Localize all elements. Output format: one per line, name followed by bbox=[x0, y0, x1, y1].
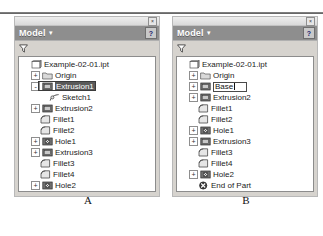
expand-toggle-icon[interactable]: + bbox=[31, 137, 40, 146]
model-tree[interactable]: Example-02-01.ipt+Origin-Extrusion1Sketc… bbox=[18, 56, 156, 192]
tree-row[interactable]: Fillet1 bbox=[177, 103, 313, 114]
model-tree[interactable]: Example-02-01.ipt+Origin+Base+Extrusion2… bbox=[176, 56, 314, 192]
model-titlebar[interactable]: Model▾? bbox=[15, 26, 159, 41]
toggle-placeholder bbox=[189, 105, 196, 112]
toggle-placeholder bbox=[189, 149, 196, 156]
tree-node-label: Extrusion1 bbox=[55, 82, 95, 91]
tree-node-label: Example-02-01.ipt bbox=[44, 60, 109, 69]
expand-toggle-icon[interactable]: + bbox=[189, 93, 198, 102]
tree-row[interactable]: Fillet4 bbox=[177, 158, 313, 169]
tree-node-label: Extrusion3 bbox=[55, 148, 93, 157]
model-browser-panel-a: ×Model▾?Example-02-01.ipt+Origin-Extrusi… bbox=[14, 16, 162, 197]
expand-toggle-icon[interactable]: + bbox=[31, 71, 40, 80]
tree-row[interactable]: Example-02-01.ipt bbox=[177, 59, 313, 70]
figure-caption: A bbox=[14, 194, 162, 206]
tree-row[interactable]: +Origin bbox=[19, 70, 155, 81]
tree-row[interactable]: Fillet1 bbox=[19, 114, 155, 125]
tree-row[interactable]: +Extrusion3 bbox=[19, 147, 155, 158]
fillet-icon bbox=[198, 148, 209, 157]
toggle-placeholder bbox=[31, 116, 38, 123]
rename-input[interactable]: Base bbox=[213, 82, 247, 92]
tree-node-label: Fillet1 bbox=[211, 104, 232, 113]
tree-row[interactable]: +Extrusion2 bbox=[177, 92, 313, 103]
tree-node-label: Fillet4 bbox=[211, 159, 232, 168]
tree-row[interactable]: +Origin bbox=[177, 70, 313, 81]
tree-row[interactable]: End of Part bbox=[177, 180, 313, 191]
figure-container: ×Model▾?Example-02-01.ipt+Origin-Extrusi… bbox=[0, 16, 323, 236]
tree-row[interactable]: +Extrusion2 bbox=[19, 103, 155, 114]
tree-node-label: Example-02-01.ipt bbox=[202, 60, 267, 69]
sketch-icon bbox=[49, 93, 60, 102]
tree-node-label: Extrusion3 bbox=[213, 137, 251, 146]
filter-funnel-icon[interactable] bbox=[177, 44, 186, 53]
folder-icon bbox=[42, 71, 53, 80]
filter-toolbar bbox=[15, 41, 159, 55]
browser-window: ×Model▾?Example-02-01.ipt+Origin+Base+Ex… bbox=[172, 16, 318, 197]
chevron-down-icon[interactable]: ▾ bbox=[49, 29, 53, 37]
tree-node-label: Hole2 bbox=[213, 170, 234, 179]
tree-node-label: Fillet4 bbox=[53, 170, 74, 179]
toggle-placeholder bbox=[189, 116, 196, 123]
expand-toggle-icon[interactable]: + bbox=[189, 126, 198, 135]
tree-node-label: End of Part bbox=[211, 181, 251, 190]
toggle-placeholder bbox=[180, 61, 187, 68]
hole-icon bbox=[200, 170, 211, 179]
expand-toggle-icon[interactable]: + bbox=[189, 82, 198, 91]
toggle-placeholder bbox=[22, 61, 29, 68]
window-title-strip: × bbox=[15, 17, 159, 26]
tree-row[interactable]: +Base bbox=[177, 81, 313, 92]
model-titlebar[interactable]: Model▾? bbox=[173, 26, 317, 41]
expand-toggle-icon[interactable]: + bbox=[31, 104, 40, 113]
expand-toggle-icon[interactable]: + bbox=[189, 137, 198, 146]
toggle-placeholder bbox=[189, 160, 196, 167]
tree-row[interactable]: Sketch1 bbox=[19, 92, 155, 103]
filter-toolbar bbox=[173, 41, 317, 55]
fillet-icon bbox=[40, 159, 51, 168]
text-cursor bbox=[234, 83, 235, 90]
tree-row[interactable]: Fillet4 bbox=[19, 169, 155, 180]
expand-toggle-icon[interactable]: + bbox=[31, 181, 40, 190]
tree-node-label: Sketch1 bbox=[62, 93, 91, 102]
tree-node-label: Fillet2 bbox=[53, 126, 74, 135]
tree-node-label: Fillet3 bbox=[53, 159, 74, 168]
tree-node-label: Origin bbox=[55, 71, 76, 80]
tree-row[interactable]: Fillet3 bbox=[177, 147, 313, 158]
chevron-down-icon[interactable]: ▾ bbox=[207, 29, 211, 37]
fillet-icon bbox=[198, 104, 209, 113]
expand-toggle-icon[interactable]: + bbox=[189, 170, 198, 179]
tree-row[interactable]: +Hole2 bbox=[19, 180, 155, 191]
close-icon[interactable]: × bbox=[306, 17, 315, 26]
extrusion-icon bbox=[200, 137, 211, 146]
fillet-icon bbox=[40, 126, 51, 135]
hole-icon bbox=[42, 137, 53, 146]
tree-row[interactable]: Example-02-01.ipt bbox=[19, 59, 155, 70]
tree-row[interactable]: Fillet2 bbox=[19, 125, 155, 136]
model-title-label: Model bbox=[177, 28, 204, 38]
extrusion-icon bbox=[200, 93, 211, 102]
collapse-toggle-icon[interactable]: - bbox=[31, 82, 40, 91]
tree-row[interactable]: +Hole1 bbox=[19, 136, 155, 147]
expand-toggle-icon[interactable]: + bbox=[31, 148, 40, 157]
close-icon[interactable]: × bbox=[148, 17, 157, 26]
model-browser-panel-b: ×Model▾?Example-02-01.ipt+Origin+Base+Ex… bbox=[172, 16, 320, 197]
tree-row[interactable]: -Extrusion1 bbox=[19, 81, 155, 92]
expand-toggle-icon[interactable]: + bbox=[189, 71, 198, 80]
extrusion-icon bbox=[42, 104, 53, 113]
part-document-icon bbox=[31, 60, 42, 69]
tree-row[interactable]: End of Part bbox=[19, 191, 155, 192]
tree-row[interactable]: Fillet3 bbox=[19, 158, 155, 169]
tree-row[interactable]: +Hole1 bbox=[177, 125, 313, 136]
tree-row[interactable]: Fillet2 bbox=[177, 114, 313, 125]
tree-node-label: Origin bbox=[213, 71, 234, 80]
help-icon[interactable]: ? bbox=[145, 27, 157, 39]
tree-node-label: Hole1 bbox=[55, 137, 76, 146]
toggle-placeholder bbox=[31, 127, 38, 134]
tree-row[interactable]: +Hole2 bbox=[177, 169, 313, 180]
rename-input-value: Base bbox=[215, 82, 233, 91]
top-divider-rule bbox=[0, 12, 323, 14]
tree-row[interactable]: +Extrusion3 bbox=[177, 136, 313, 147]
folder-icon bbox=[200, 71, 211, 80]
model-title-label: Model bbox=[19, 28, 46, 38]
help-icon[interactable]: ? bbox=[303, 27, 315, 39]
filter-funnel-icon[interactable] bbox=[19, 44, 28, 53]
